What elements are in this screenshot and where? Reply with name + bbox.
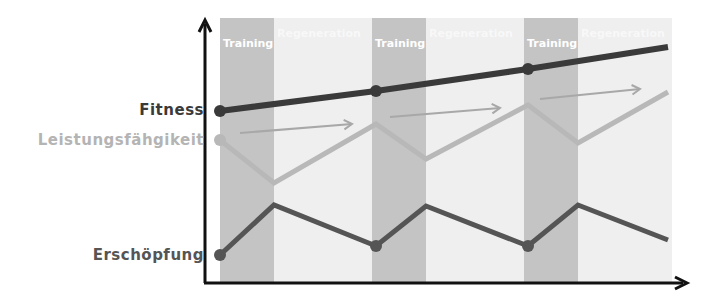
band-label-regeneration: Regeneration: [581, 27, 665, 40]
fitness-marker: [522, 63, 534, 75]
fatigue-marker: [214, 249, 226, 261]
band-label-training: Training: [375, 37, 425, 50]
fitness-marker: [370, 85, 382, 97]
fatigue-marker: [522, 240, 534, 252]
band-label-training: Training: [527, 37, 577, 50]
band-regeneration: [274, 18, 372, 283]
performance-marker: [214, 134, 226, 146]
fitness-label: Fitness: [139, 101, 204, 119]
band-label-training: Training: [223, 37, 273, 50]
fatigue-label: Erschöpfung: [93, 246, 204, 264]
fitness-marker: [214, 105, 226, 117]
band-training: [220, 18, 274, 283]
band-label-regeneration: Regeneration: [277, 27, 361, 40]
performance-label: Leistungsfähgikeit: [38, 131, 204, 149]
band-label-regeneration: Regeneration: [429, 27, 513, 40]
fatigue-marker: [370, 240, 382, 252]
